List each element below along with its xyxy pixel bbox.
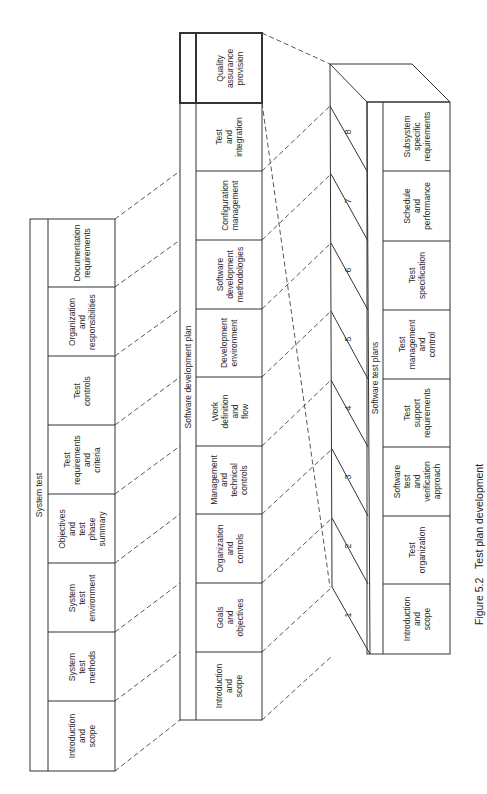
test-plan-number: 8 <box>343 129 353 134</box>
sdp-section: Software development methodologies <box>195 241 264 309</box>
system-test-section: Organization and responsibilities <box>48 288 116 357</box>
sdp-section: Test and integration <box>195 103 263 171</box>
test-plan-section: Software test and verification approach <box>382 447 451 516</box>
figure-title: Test plan development <box>473 464 485 569</box>
system-test-section: Objectives and test phase summary <box>48 495 116 564</box>
sdp-section: Development environment <box>195 309 263 377</box>
test-plan-number: 3 <box>343 474 353 479</box>
test-plan-number: 4 <box>343 405 353 410</box>
figure-number: Figure 5.2 <box>473 578 485 625</box>
test-plan-number: 5 <box>343 336 353 341</box>
system-test-section: Test requirements and criteria <box>48 426 116 495</box>
system-test-section: Documentation requirements <box>48 219 116 288</box>
sdp-section: Organization and controls <box>195 515 264 583</box>
system-test-section: Test controls <box>48 357 116 426</box>
test-plan-section: Introduction and scope <box>382 585 452 654</box>
test-plan-section: Test organization <box>383 516 451 585</box>
figure-caption: Figure 5.2 Test plan development <box>473 425 487 625</box>
test-plan-section: Schedule and performance <box>382 172 452 241</box>
test-plan-number: 2 <box>343 543 353 548</box>
sdp-section: Management and technical controls <box>195 446 263 514</box>
sdp-section: Introduction and scope <box>195 652 263 720</box>
sdp-section: Goals and objectives <box>195 584 264 652</box>
system-test-section: System test methods <box>48 633 116 702</box>
test-plan-number: 6 <box>343 267 353 272</box>
sdp-section-quality-assurance: Quality assurance provision <box>195 35 264 103</box>
test-plan-section: Test management and control <box>382 310 451 379</box>
system-test-section: Introduction and scope <box>48 702 116 771</box>
test-plan-section: Subsystem specific requirements <box>382 102 451 171</box>
sdp-section: Configuration management <box>195 172 264 240</box>
system-test-title: System test <box>30 219 48 771</box>
test-plan-number: 1 <box>343 612 353 617</box>
test-plan-number: 7 <box>343 198 353 203</box>
sdp-section: Work definition and flow <box>195 378 264 446</box>
test-plan-section: Test specification <box>382 241 451 310</box>
test-plan-section: Test support requirements <box>383 379 451 448</box>
system-test-section: System test environment <box>48 564 116 633</box>
